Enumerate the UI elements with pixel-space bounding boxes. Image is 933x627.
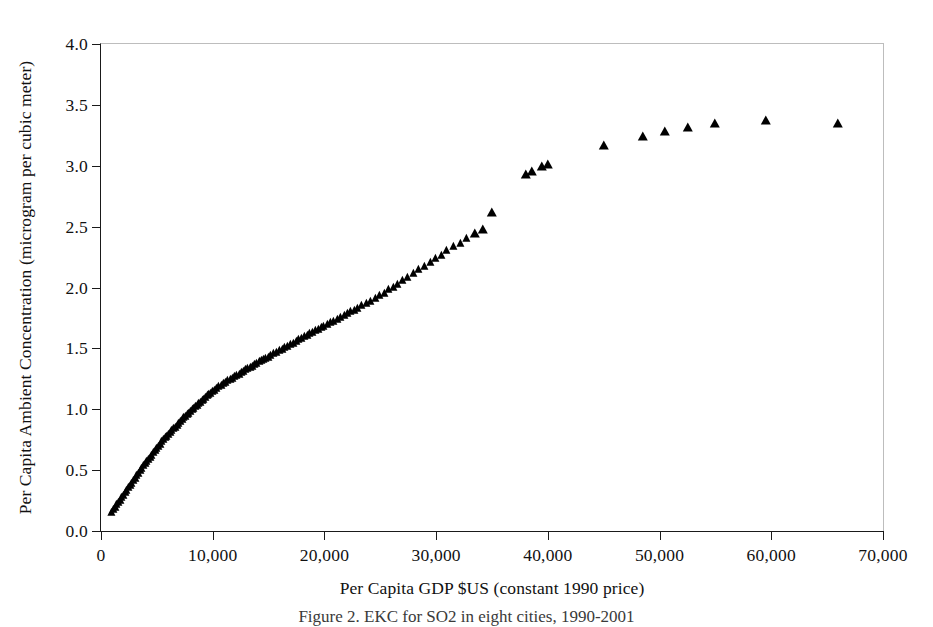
x-axis-tick bbox=[660, 531, 661, 540]
y-axis-tick-label: 3.0 bbox=[66, 155, 88, 176]
data-point-marker bbox=[638, 131, 648, 140]
data-point-marker bbox=[487, 208, 497, 217]
y-axis-tick bbox=[92, 166, 101, 167]
y-axis-tick bbox=[92, 348, 101, 349]
x-axis-tick bbox=[101, 531, 102, 540]
y-axis-tick bbox=[92, 531, 101, 532]
x-axis-tick bbox=[213, 531, 214, 540]
data-point-marker bbox=[527, 166, 537, 175]
x-axis-tick bbox=[771, 531, 772, 540]
data-point-marker bbox=[478, 225, 488, 234]
y-axis-tick bbox=[92, 470, 101, 471]
figure-caption: Figure 2. EKC for SO2 in eight cities, 1… bbox=[0, 607, 933, 627]
y-axis-title-label: Per Capita Ambient Concentration (microg… bbox=[16, 61, 37, 515]
data-point-marker bbox=[660, 126, 670, 135]
data-point-marker bbox=[760, 115, 770, 124]
y-axis-tick bbox=[92, 227, 101, 228]
y-axis-tick bbox=[92, 44, 101, 45]
y-axis-tick-label: 1.5 bbox=[66, 338, 88, 359]
x-axis-tick bbox=[436, 531, 437, 540]
y-axis-tick bbox=[92, 409, 101, 410]
plot-frame: 0.00.51.01.52.02.53.03.54.0010,00020,000… bbox=[100, 43, 884, 532]
x-axis-tick-label: 30,000 bbox=[411, 545, 460, 566]
y-axis-tick-label: 2.0 bbox=[66, 277, 88, 298]
x-axis-tick-label: 40,000 bbox=[523, 545, 572, 566]
y-axis-tick-label: 1.0 bbox=[66, 399, 88, 420]
y-axis-tick-label: 4.0 bbox=[66, 34, 88, 55]
x-axis-title-label: Per Capita GDP $US (constant 1990 price) bbox=[340, 578, 645, 598]
y-axis-title: Per Capita Ambient Concentration (microg… bbox=[14, 43, 38, 532]
y-axis-tick-label: 2.5 bbox=[66, 216, 88, 237]
data-point-marker bbox=[833, 119, 843, 128]
x-axis-tick-label: 20,000 bbox=[300, 545, 349, 566]
y-axis-tick bbox=[92, 288, 101, 289]
y-axis-tick-label: 0.0 bbox=[66, 521, 88, 542]
x-axis-tick bbox=[324, 531, 325, 540]
data-point-marker bbox=[599, 141, 609, 150]
x-axis-tick-label: 50,000 bbox=[635, 545, 684, 566]
x-axis-tick-label: 10,000 bbox=[188, 545, 237, 566]
x-axis-title: Per Capita GDP $US (constant 1990 price) bbox=[100, 578, 884, 599]
data-point-marker bbox=[710, 119, 720, 128]
x-axis-tick bbox=[883, 531, 884, 540]
y-axis-tick bbox=[92, 105, 101, 106]
data-point-marker bbox=[682, 122, 692, 131]
data-point-marker bbox=[543, 159, 553, 168]
x-axis-tick-label: 0 bbox=[97, 545, 106, 566]
x-axis-tick-label: 70,000 bbox=[858, 545, 907, 566]
y-axis-tick-label: 0.5 bbox=[66, 460, 88, 481]
y-axis-tick-label: 3.5 bbox=[66, 94, 88, 115]
x-axis-tick bbox=[548, 531, 549, 540]
x-axis-tick-label: 60,000 bbox=[747, 545, 796, 566]
plot-area bbox=[101, 44, 883, 531]
